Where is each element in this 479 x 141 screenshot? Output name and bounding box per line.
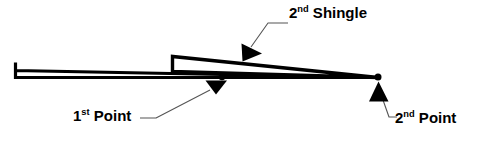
first-point-dot bbox=[219, 74, 226, 81]
label-second-shingle-suffix: nd bbox=[297, 4, 308, 14]
diagram-canvas: 2nd Shingle 1st Point 2nd Point bbox=[0, 0, 479, 141]
label-second-point-suffix: nd bbox=[403, 109, 414, 119]
label-second-shingle-text: Shingle bbox=[309, 4, 367, 21]
label-first-point-text: Point bbox=[90, 107, 132, 124]
first-point-leader-line bbox=[140, 90, 210, 118]
second-point-arrowhead-icon bbox=[369, 82, 389, 102]
first-point-arrowhead-icon bbox=[206, 81, 228, 95]
label-second-point: 2nd Point bbox=[395, 110, 456, 125]
label-first-point: 1st Point bbox=[73, 108, 131, 123]
second-shingle-leader-line bbox=[251, 23, 288, 47]
label-first-point-suffix: st bbox=[81, 107, 89, 117]
second-point-dot bbox=[375, 74, 382, 81]
label-second-point-text: Point bbox=[415, 109, 457, 126]
label-second-shingle: 2nd Shingle bbox=[289, 5, 367, 20]
